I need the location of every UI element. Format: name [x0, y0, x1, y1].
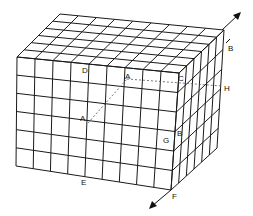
label-c: C: [178, 74, 184, 83]
vector-mark-icon: [226, 39, 230, 43]
label-f: F: [172, 192, 177, 201]
label-e: E: [81, 178, 86, 187]
label-h: H: [224, 84, 230, 93]
arrow-up-right-icon: [222, 12, 241, 30]
dislocation-line: [88, 79, 127, 123]
label-a-mid: A: [80, 114, 86, 123]
label-g: G: [163, 136, 169, 145]
label-b-side: B: [177, 129, 182, 138]
label-a-top: A: [125, 72, 131, 81]
arrow-down-left-icon: [149, 190, 171, 209]
label-b-vector: B: [228, 44, 233, 53]
label-d: D: [82, 66, 88, 75]
lattice-grid: [16, 14, 224, 190]
crystal-block-diagram: D A C H A B G E F B: [0, 0, 253, 216]
